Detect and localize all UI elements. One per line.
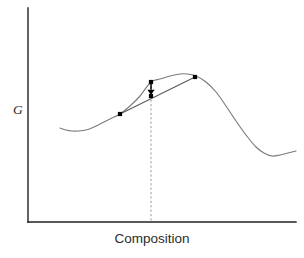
chord-point-at-composition-marker — [149, 94, 153, 98]
right-tangent-point-marker — [193, 75, 197, 79]
free-energy-composition-figure: G Composition — [0, 0, 304, 258]
curve-point-at-composition-marker — [149, 80, 153, 84]
plot-canvas — [0, 0, 304, 258]
common-tangent-chord — [120, 77, 195, 114]
y-axis-label: G — [13, 103, 23, 117]
x-axis-label: Composition — [0, 232, 304, 246]
free-energy-curve — [60, 74, 296, 156]
left-tangent-point-marker — [118, 112, 122, 116]
